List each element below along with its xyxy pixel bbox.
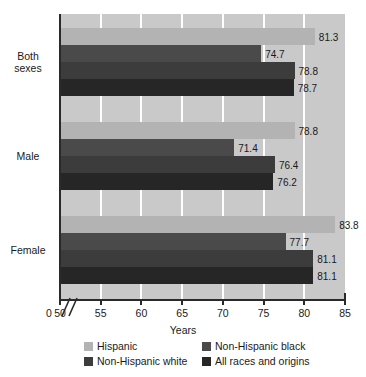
bar	[60, 233, 286, 250]
x-tick-80	[303, 299, 305, 305]
legend-item: Non-Hispanic black	[202, 340, 305, 352]
x-axis-zero-label: 0	[46, 307, 52, 319]
bar-value-label: 78.7	[296, 82, 319, 93]
legend-swatch-icon	[202, 357, 211, 366]
legend-item: All races and origins	[202, 355, 310, 367]
category-label-line: sexes	[0, 62, 56, 74]
x-tick-label: 75	[258, 307, 270, 319]
bar-row: 76.4	[60, 156, 345, 173]
bar-value-label: 81.1	[315, 253, 338, 264]
x-tick-label: 60	[136, 307, 148, 319]
bar-value-label: 76.4	[277, 159, 300, 170]
category-label-line: Female	[0, 244, 56, 256]
x-tick-label: 65	[176, 307, 188, 319]
legend-label: Hispanic	[97, 340, 137, 352]
bar	[60, 139, 234, 156]
legend-label: Non-Hispanic black	[215, 340, 305, 352]
bar-row: 76.2	[60, 173, 345, 190]
legend-swatch-icon	[84, 342, 93, 351]
bar	[60, 62, 295, 79]
x-tick-label: 55	[95, 307, 107, 319]
bar-row: 77.7	[60, 233, 345, 250]
bar-row: 74.7	[60, 45, 345, 62]
y-axis-line	[59, 14, 61, 299]
legend-item: Hispanic	[84, 340, 202, 352]
axis-break-icon	[56, 296, 86, 318]
bar-value-label: 78.8	[297, 125, 320, 136]
x-axis-title: Years	[0, 324, 366, 336]
category-label: Male	[0, 150, 56, 162]
x-tick-label: 80	[298, 307, 310, 319]
bar	[60, 267, 313, 284]
bar	[60, 156, 275, 173]
x-tick-60	[140, 299, 142, 305]
legend-item: Non-Hispanic white	[84, 355, 202, 367]
bar-value-label: 78.8	[297, 65, 320, 76]
x-tick-label: 70	[217, 307, 229, 319]
x-tick-85	[344, 299, 346, 305]
x-tick-label: 85	[339, 307, 351, 319]
bar-row: 83.8	[60, 216, 345, 233]
legend-swatch-icon	[202, 342, 211, 351]
bar	[60, 173, 273, 190]
bar-value-label: 76.2	[275, 176, 298, 187]
x-tick-65	[181, 299, 183, 305]
bar-value-label: 77.7	[288, 236, 311, 247]
bar	[60, 28, 315, 45]
bar-row: 71.4	[60, 139, 345, 156]
category-label-line: Male	[0, 150, 56, 162]
bar-value-label: 81.1	[315, 270, 338, 281]
life-expectancy-bar-chart: BothsexesMaleFemale 81.374.778.878.778.8…	[0, 0, 366, 377]
x-axis-end-cap	[344, 293, 346, 299]
bar-row: 78.8	[60, 122, 345, 139]
bar-value-label: 81.3	[317, 31, 340, 42]
bar-value-label: 83.8	[337, 219, 360, 230]
bar-row: 81.1	[60, 250, 345, 267]
plot-area: 81.374.778.878.778.871.476.476.283.877.7…	[60, 14, 345, 299]
legend-label: Non-Hispanic white	[97, 355, 187, 367]
category-label: Bothsexes	[0, 50, 56, 74]
x-tick-70	[222, 299, 224, 305]
bar-row: 81.3	[60, 28, 345, 45]
legend-swatch-icon	[84, 357, 93, 366]
x-tick-55	[100, 299, 102, 305]
category-axis-labels: BothsexesMaleFemale	[0, 14, 56, 299]
bar	[60, 122, 295, 139]
legend-label: All races and origins	[215, 355, 310, 367]
legend-row: Non-Hispanic whiteAll races and origins	[84, 355, 344, 367]
bar-row: 78.8	[60, 62, 345, 79]
legend-row: HispanicNon-Hispanic black	[84, 340, 344, 352]
category-label-line: Both	[0, 50, 56, 62]
bar-value-label: 74.7	[263, 48, 286, 59]
bar-value-label: 71.4	[236, 142, 259, 153]
chart-legend: HispanicNon-Hispanic blackNon-Hispanic w…	[84, 340, 344, 370]
bar	[60, 45, 261, 62]
bar	[60, 216, 335, 233]
bar	[60, 250, 313, 267]
bar-row: 81.1	[60, 267, 345, 284]
bar-row: 78.7	[60, 79, 345, 96]
bar	[60, 79, 294, 96]
x-tick-75	[263, 299, 265, 305]
category-label: Female	[0, 244, 56, 256]
x-axis: 5055606570758085	[60, 299, 345, 300]
